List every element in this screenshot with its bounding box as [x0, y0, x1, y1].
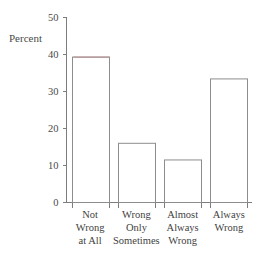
category-label-line: Wrong — [168, 235, 197, 246]
category-label-line: Only — [126, 222, 148, 233]
bar-chart-figure: Percent 01020304050 NotWrongat AllWrongO… — [0, 0, 268, 258]
category-label: AlmostAlwaysWrong — [167, 209, 199, 246]
bar — [73, 57, 110, 202]
y-tick-group: 01020304050 — [48, 12, 67, 208]
y-tick-label: 40 — [48, 49, 59, 60]
y-axis-label: Percent — [9, 32, 42, 44]
category-label-line: at All — [79, 235, 102, 246]
y-tick-label: 20 — [48, 123, 59, 134]
bar — [119, 143, 156, 202]
x-tick-group — [73, 203, 248, 208]
category-label-group: NotWrongat AllWrongOnlySometimesAlmostAl… — [76, 209, 245, 246]
category-label: WrongOnlySometimes — [113, 209, 160, 246]
category-label-line: Almost — [167, 209, 198, 220]
bars-group — [73, 57, 248, 202]
category-label-line: Wrong — [76, 222, 105, 233]
y-tick-label: 50 — [48, 12, 59, 23]
category-label-line: Wrong — [215, 222, 244, 233]
category-label-line: Sometimes — [113, 235, 160, 246]
y-tick-label: 10 — [48, 160, 59, 171]
category-label-line: Not — [82, 209, 98, 220]
y-tick-label: 0 — [53, 197, 58, 208]
category-label-line: Wrong — [122, 209, 151, 220]
bar — [211, 79, 248, 203]
y-tick-label: 30 — [48, 86, 59, 97]
chart-canvas: Percent 01020304050 NotWrongat AllWrongO… — [0, 0, 268, 258]
category-label: NotWrongat All — [76, 209, 105, 246]
category-label-line: Always — [167, 222, 199, 233]
category-label-line: Always — [213, 209, 245, 220]
category-label: AlwaysWrong — [213, 209, 245, 233]
bar — [165, 160, 202, 203]
